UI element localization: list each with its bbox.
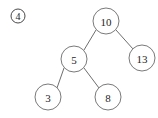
tree-node-8: 8	[95, 84, 121, 110]
node-label-5: 5	[71, 54, 77, 66]
binary-tree-figure: 1013538 4	[0, 0, 158, 118]
tree-node-5: 5	[61, 46, 87, 72]
tree-edge-n10-n5	[84, 30, 96, 50]
tree-nodes-group: 1013538	[35, 8, 155, 110]
node-label-8: 8	[105, 92, 111, 104]
figure-number-marker: 4	[11, 9, 25, 23]
tree-diagram-canvas: 1013538 4	[0, 0, 158, 118]
tree-node-13: 13	[129, 45, 155, 71]
node-label-3: 3	[45, 92, 51, 104]
node-label-13: 13	[137, 53, 149, 65]
tree-edge-n10-n13	[116, 30, 133, 49]
tree-edge-n5-n8	[84, 68, 99, 88]
marker-label: 4	[16, 11, 21, 22]
tree-edge-n5-n3	[57, 68, 64, 88]
node-label-10: 10	[101, 16, 113, 28]
tree-node-3: 3	[35, 84, 61, 110]
tree-node-10: 10	[93, 8, 119, 34]
